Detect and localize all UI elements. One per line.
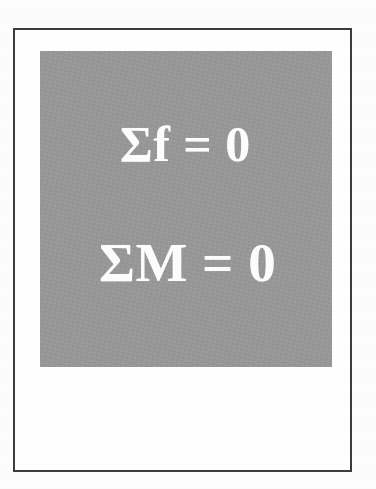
equation-sum-of-forces: Σf = 0 [120,119,251,169]
panel-grain-overlay [40,51,332,367]
equation-panel: Σf = 0 ΣM = 0 [40,51,332,367]
slide-lower-whitespace [15,367,350,470]
slide-frame: Σf = 0 ΣM = 0 [13,28,352,472]
equation-sum-of-moments: ΣM = 0 [99,235,276,290]
scanned-page: Σf = 0 ΣM = 0 [0,0,376,489]
